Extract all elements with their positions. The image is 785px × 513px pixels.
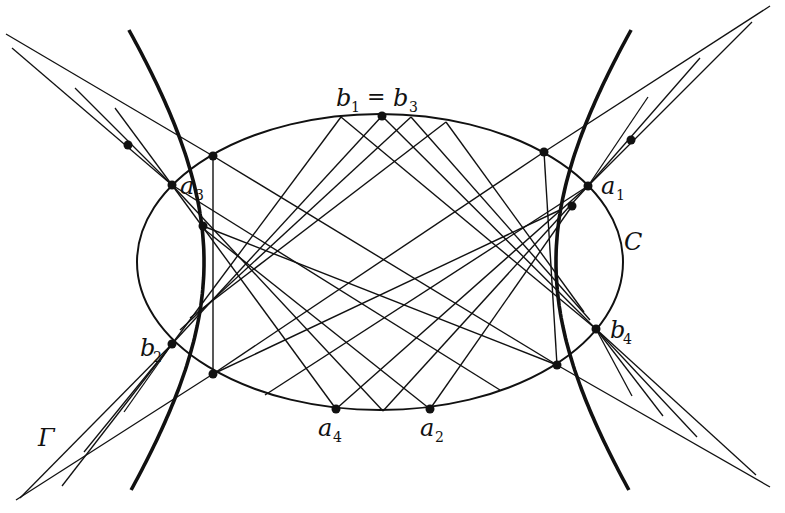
chord-line	[446, 122, 584, 312]
billiard-diagram: b 1 = b 3 a 1 a 3 b 2 b 4 a 4 a 2 C Γ	[0, 0, 785, 513]
construction-point	[209, 370, 218, 379]
svg-text:2: 2	[153, 349, 162, 365]
svg-text:a: a	[180, 172, 194, 200]
label-a3: a 3	[180, 172, 204, 203]
hyperbola-branch-right	[556, 30, 631, 490]
svg-text:1: 1	[616, 187, 625, 203]
label-b3: b	[393, 84, 408, 112]
construction-point	[553, 361, 562, 370]
point-a1	[584, 182, 593, 191]
tangent-line	[6, 34, 213, 156]
hyperbola-point	[627, 136, 636, 145]
label-a1: a 1	[601, 172, 625, 203]
point-b2	[168, 340, 177, 349]
svg-text:3: 3	[409, 99, 418, 115]
tangent-line	[20, 344, 172, 498]
chord-line	[180, 117, 411, 330]
chord-line	[213, 210, 560, 374]
point-a2	[426, 405, 435, 414]
point-a4	[332, 405, 341, 414]
chord-line	[172, 185, 500, 390]
svg-text:1: 1	[351, 99, 360, 115]
svg-text:3: 3	[195, 187, 204, 203]
label-b1: b	[336, 84, 351, 112]
svg-text:a: a	[318, 414, 332, 442]
svg-text:a: a	[601, 172, 615, 200]
svg-text:4: 4	[623, 331, 632, 347]
tangent-line	[588, 22, 752, 186]
tangent-line	[62, 344, 172, 486]
svg-text:4: 4	[333, 429, 342, 445]
label-b2: b 2	[140, 334, 162, 365]
tangent-line	[115, 108, 172, 185]
label-a2: a 2	[420, 414, 444, 445]
hyperbola-point	[199, 222, 208, 231]
tangent-line	[596, 329, 756, 475]
construction-point	[209, 152, 218, 161]
label-a4: a 4	[318, 414, 342, 445]
hyperbola-point	[124, 141, 133, 150]
tangent-line	[588, 97, 648, 186]
label-Gamma: Γ	[37, 424, 56, 452]
label-b1-eq-b3: b 1 = b 3	[336, 84, 418, 115]
billiard-chords	[172, 116, 596, 411]
hyperbola-point	[568, 202, 577, 211]
tangent-line	[544, 6, 770, 152]
svg-text:2: 2	[435, 429, 444, 445]
label-b4: b 4	[610, 316, 632, 347]
point-b4	[592, 325, 601, 334]
chord-line	[172, 185, 336, 409]
svg-text:=: =	[367, 84, 385, 109]
tangent-line	[596, 329, 697, 437]
point-a3	[168, 181, 177, 190]
chord-line	[382, 116, 596, 329]
label-C: C	[624, 228, 642, 256]
tangent-lines	[6, 6, 770, 500]
point-b1-b3	[378, 112, 387, 121]
chord-line	[172, 185, 383, 411]
construction-point	[540, 148, 549, 157]
tangent-line	[557, 365, 770, 487]
chord-line	[172, 117, 341, 344]
svg-text:a: a	[420, 414, 434, 442]
